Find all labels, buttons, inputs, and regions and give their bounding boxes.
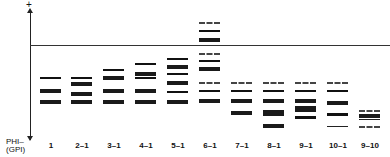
band xyxy=(103,89,124,93)
lane-label: 7–1 xyxy=(227,141,257,150)
band xyxy=(199,67,220,71)
band xyxy=(231,82,252,84)
band xyxy=(40,77,61,79)
band xyxy=(295,82,316,84)
band xyxy=(199,90,220,92)
lane-label: 6–1 xyxy=(195,141,225,150)
band xyxy=(199,53,220,55)
lane-label: 4–1 xyxy=(131,141,161,150)
band xyxy=(103,100,124,104)
lane-label: 9–1 xyxy=(291,141,321,150)
band xyxy=(327,82,348,84)
band xyxy=(71,82,92,86)
band xyxy=(199,60,220,62)
band xyxy=(263,99,284,103)
band xyxy=(167,65,188,69)
band xyxy=(71,92,92,96)
phi-label: PHI– (GPI) xyxy=(6,138,25,154)
lane-label: 9–10 xyxy=(355,141,385,150)
band xyxy=(295,106,316,112)
band xyxy=(359,110,380,112)
band xyxy=(327,126,348,127)
band xyxy=(135,63,156,65)
origin-line xyxy=(30,45,390,46)
band xyxy=(295,90,316,92)
band xyxy=(167,100,188,104)
band xyxy=(359,126,380,128)
band xyxy=(231,111,252,115)
band xyxy=(135,100,156,104)
lane-label: 1 xyxy=(36,141,66,150)
lane-label: 10–1 xyxy=(323,141,353,150)
band xyxy=(295,116,316,119)
band xyxy=(263,110,284,116)
band xyxy=(199,30,220,32)
lane-label: 5–1 xyxy=(163,141,193,150)
band xyxy=(135,77,156,79)
band xyxy=(40,89,61,93)
band xyxy=(359,114,380,118)
band xyxy=(263,90,284,92)
band xyxy=(40,100,61,104)
lane-label: 2–1 xyxy=(67,141,97,150)
band xyxy=(103,69,124,71)
band xyxy=(167,58,188,60)
band xyxy=(167,73,188,75)
band xyxy=(231,90,252,92)
band xyxy=(231,99,252,103)
band xyxy=(103,76,124,80)
band xyxy=(295,99,316,103)
band xyxy=(71,100,92,104)
band xyxy=(327,90,348,92)
band xyxy=(263,82,284,84)
arrow-down-icon xyxy=(27,136,33,141)
band xyxy=(359,119,380,120)
band xyxy=(327,101,348,105)
lane-label: 8–1 xyxy=(259,141,289,150)
band xyxy=(263,124,284,128)
band xyxy=(199,38,220,42)
band xyxy=(135,72,156,76)
band xyxy=(71,77,92,79)
lane-label: 3–1 xyxy=(99,141,129,150)
band xyxy=(167,91,188,93)
band xyxy=(167,81,188,85)
band xyxy=(199,99,220,103)
band xyxy=(135,89,156,93)
band xyxy=(199,82,220,84)
migration-axis xyxy=(30,10,31,140)
band xyxy=(327,113,348,116)
band xyxy=(199,22,220,24)
